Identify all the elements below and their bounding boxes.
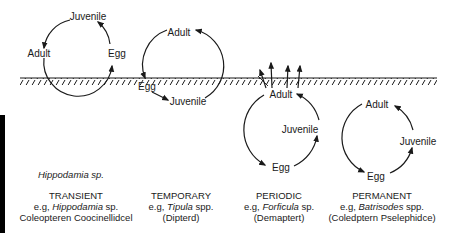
stage-label-adult: Adult [270, 89, 293, 100]
stage-label-juvenile: Juvenile [70, 11, 107, 22]
example-line: e.g, Hippodamia sp. [19, 201, 132, 212]
example-line: e.g, Tipula spp. [149, 201, 214, 212]
caption-permanent: PERMANENT e.g, Batrisodes spp. (Coledpte… [328, 190, 435, 223]
taxon-label: (Demaptert) [244, 212, 314, 223]
category-label: PERIODIC [244, 190, 314, 201]
stage-label-egg: Egg [108, 48, 126, 59]
taxon-label: Coleopteren Coocinellidcel [19, 212, 132, 223]
example-line: e.g, Batrisodes spp. [328, 201, 435, 212]
caption-periodic: PERIODIC e.g, Forficula sp. (Demaptert) [244, 190, 314, 223]
stage-label-juvenile: Juvenile [400, 136, 437, 147]
stage-label-adult: Adult [28, 48, 51, 59]
species-note: Hippodamia sp. [38, 169, 104, 180]
category-label: PERMANENT [328, 190, 435, 201]
example-line: e.g, Forficula sp. [244, 201, 314, 212]
category-label: TRANSIENT [19, 190, 132, 201]
taxon-label: (Coledptern Pselephidce) [328, 212, 435, 223]
ground-surface [20, 78, 437, 85]
category-label: TEMPORARY [149, 190, 214, 201]
stage-label-juvenile: Juvenile [282, 124, 319, 135]
stage-label-adult: Adult [168, 27, 191, 38]
caption-temporary: TEMPORARY e.g, Tipula spp. (Dipterd) [149, 190, 214, 223]
stage-label-adult: Adult [366, 99, 389, 110]
stage-label-egg: Egg [367, 171, 385, 182]
caption-transient: TRANSIENT e.g, Hippodamia sp. Coleoptere… [19, 190, 132, 223]
stage-label-egg: Egg [138, 81, 156, 92]
stage-label-juvenile: Juvenile [170, 96, 207, 107]
taxon-label: (Dipterd) [149, 212, 214, 223]
stage-label-egg: Egg [272, 162, 290, 173]
